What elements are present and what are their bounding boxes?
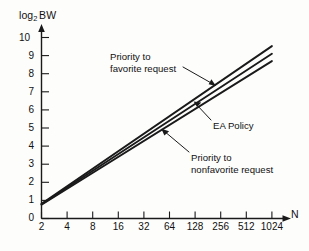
y-axis-title-subscript: 2	[33, 14, 39, 23]
x-tick-label-64: 64	[160, 221, 180, 232]
x-axis-ticks	[42, 212, 272, 219]
annotation-favorite-request: Priority to favorite request	[110, 51, 176, 76]
x-tick-label-8: 8	[83, 221, 103, 232]
series-line-nonfavorite	[42, 61, 272, 205]
annotation-nonfavorite-line2: nonfavorite request	[191, 164, 273, 176]
annotation-favorite-line1: Priority to	[110, 51, 176, 63]
y-tick-label-5: 5	[12, 122, 34, 133]
chart-plot-area	[0, 0, 309, 251]
annotation-nonfavorite-request: Priority to nonfavorite request	[191, 152, 273, 177]
y-tick-label-1: 1	[12, 194, 34, 205]
leader-line-favorite	[183, 67, 213, 84]
x-tick-label-256: 256	[208, 221, 234, 232]
y-tick-label-3: 3	[12, 158, 34, 169]
annotation-nonfavorite-line1: Priority to	[191, 152, 273, 164]
y-tick-label-6: 6	[12, 104, 34, 115]
leader-arrow-favorite-icon	[209, 79, 216, 86]
y-tick-label-4: 4	[12, 140, 34, 151]
y-tick-label-2: 2	[12, 176, 34, 187]
y-axis-title-rest: BW	[39, 9, 56, 21]
y-tick-label-7: 7	[12, 86, 34, 97]
y-tick-label-9: 9	[12, 50, 34, 61]
y-axis-ticks	[42, 38, 50, 219]
annotation-ea-policy-line1: EA Policy	[213, 120, 254, 132]
x-axis-title: N	[291, 208, 299, 220]
chart-figure: log2BW N 0 1 2 3 4 5 6 7 8 9 10 2 4 8 16…	[0, 0, 309, 251]
y-tick-label-8: 8	[12, 68, 34, 79]
leader-line-ea-policy	[196, 104, 211, 120]
x-tick-label-1024: 1024	[257, 221, 287, 232]
y-axis-title-base: log	[19, 9, 33, 21]
annotation-ea-policy: EA Policy	[213, 120, 254, 132]
x-tick-label-512: 512	[233, 221, 259, 232]
leader-line-nonfavorite	[164, 131, 189, 152]
y-axis-title: log2BW	[19, 9, 56, 21]
x-tick-label-32: 32	[134, 221, 154, 232]
y-tick-label-10: 10	[8, 32, 30, 43]
y-axis-arrow-icon	[38, 24, 45, 32]
x-tick-label-16: 16	[108, 221, 128, 232]
x-tick-label-4: 4	[57, 221, 77, 232]
annotation-favorite-line2: favorite request	[110, 63, 176, 75]
x-tick-label-128: 128	[182, 221, 208, 232]
x-tick-label-2: 2	[32, 221, 52, 232]
